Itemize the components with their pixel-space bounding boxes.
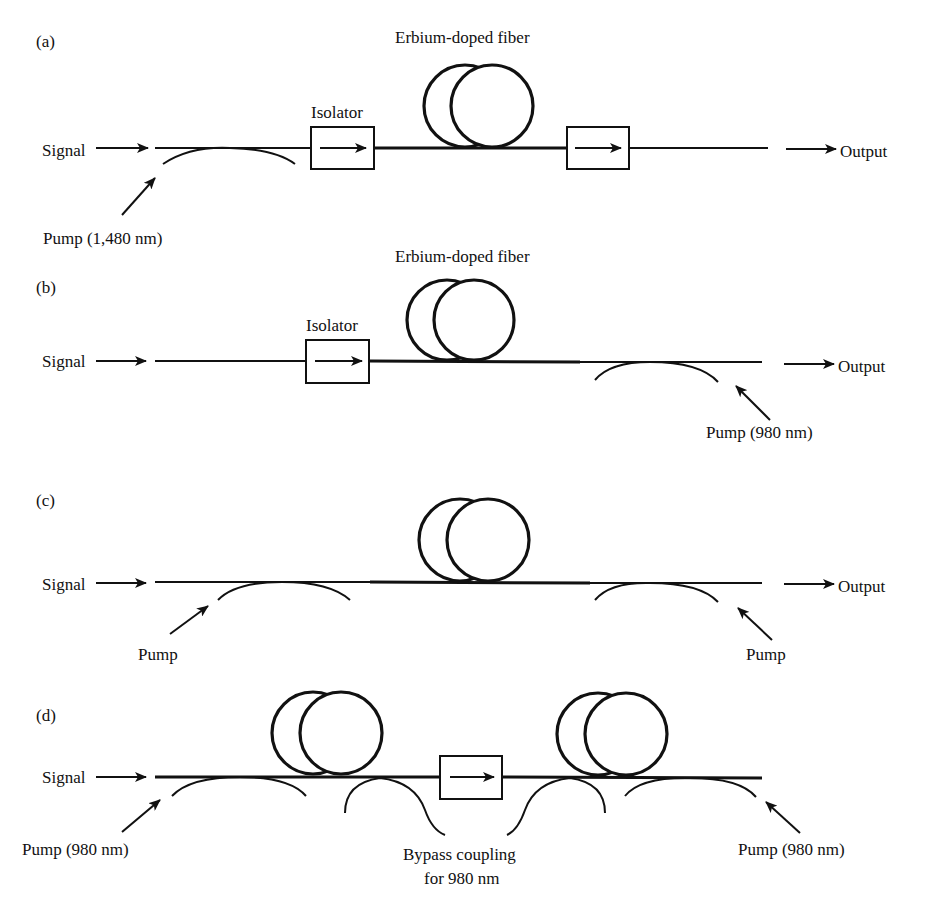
signal-label: Signal	[42, 352, 86, 371]
pump-arrow-icon	[122, 178, 155, 215]
pump-label: Pump (980 nm)	[738, 840, 845, 859]
fiber-coil-front	[300, 692, 382, 774]
pump-arrow-icon	[170, 606, 208, 634]
fiber-coil-front	[434, 280, 514, 360]
pump-label: Pump	[746, 645, 786, 664]
panel-a-label: (a)	[36, 32, 55, 51]
panel-c: (c) Signal Pump Pump Output	[36, 491, 886, 664]
panel-b: (b) Erbium-doped fiber Signal Isolator P…	[36, 247, 886, 442]
bypass-label-line1: Bypass coupling	[403, 845, 516, 864]
erbium-fiber-label: Erbium-doped fiber	[395, 28, 530, 47]
bypass-coupler-left	[345, 778, 445, 835]
pump-arrow-icon	[122, 800, 160, 832]
panel-d: (d) Signal Pump (980 nm) Bypass coupling…	[22, 692, 845, 888]
pump-arrow-icon	[738, 608, 772, 640]
signal-label: Signal	[42, 768, 86, 787]
bypass-coupler-right	[507, 778, 605, 835]
signal-label: Signal	[42, 141, 86, 160]
erbium-fiber-label: Erbium-doped fiber	[395, 247, 530, 266]
panel-b-label: (b)	[36, 278, 56, 297]
output-label: Output	[840, 142, 888, 161]
fiber-coil-front	[447, 499, 529, 581]
pump-arrow-icon	[766, 802, 800, 833]
panel-a: (a) Erbium-doped fiber Signal Pump (1,48…	[36, 28, 888, 248]
bypass-label-line2: for 980 nm	[424, 869, 500, 888]
isolator-label: Isolator	[306, 316, 358, 335]
wdm-coupler	[218, 582, 350, 600]
signal-label: Signal	[42, 575, 86, 594]
wdm-coupler	[172, 777, 306, 796]
erbium-fiber-line	[370, 582, 590, 583]
fiber-coil-front	[451, 65, 533, 147]
pump-label: Pump (980 nm)	[22, 840, 129, 859]
pump-label: Pump	[138, 645, 178, 664]
pump-arrow-icon	[736, 386, 770, 420]
fiber-coil-front	[585, 693, 667, 775]
output-label: Output	[838, 357, 886, 376]
pump-label: Pump (980 nm)	[706, 423, 813, 442]
erbium-fiber-line	[502, 777, 762, 778]
output-label: Output	[838, 577, 886, 596]
panel-c-label: (c)	[36, 491, 55, 510]
isolator-label: Isolator	[311, 103, 363, 122]
wdm-coupler	[625, 778, 756, 797]
panel-d-label: (d)	[36, 706, 56, 725]
wdm-coupler	[595, 583, 718, 602]
wdm-coupler	[163, 148, 295, 164]
edfa-configurations-diagram: (a) Erbium-doped fiber Signal Pump (1,48…	[0, 0, 927, 913]
wdm-coupler	[595, 362, 718, 382]
pump-label: Pump (1,480 nm)	[43, 229, 162, 248]
